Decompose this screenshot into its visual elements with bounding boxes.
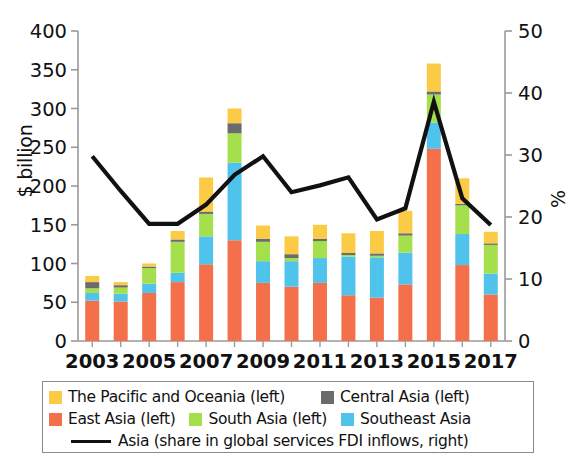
y-tick-right: 20 — [518, 206, 543, 229]
bar-segment — [228, 240, 242, 341]
legend-label-pacific-oceania: The Pacific and Oceania (left) — [68, 388, 285, 406]
bar-segment — [114, 294, 128, 302]
bar-segment — [114, 282, 128, 285]
bar-segment — [228, 109, 242, 124]
figure-root: g 05010015020025030035040001020304050200… — [0, 0, 576, 462]
bar-segment — [256, 261, 270, 283]
legend-item-southeast-asia: Southeast Asia — [341, 410, 471, 428]
bar-segment — [341, 257, 355, 296]
bar-segment — [256, 242, 270, 261]
bar-segment — [370, 257, 384, 297]
bar-segment — [85, 276, 99, 282]
bar-segment — [484, 295, 498, 342]
bar-segment — [313, 239, 327, 241]
bar-segment — [427, 91, 441, 94]
bar-segment — [370, 231, 384, 253]
legend-item-central-asia: Central Asia (left) — [321, 388, 469, 406]
chart-canvas: 0501001502002503003504000102030405020032… — [0, 0, 576, 370]
bar-segment — [285, 236, 299, 254]
bar-segment — [256, 239, 270, 242]
y-axis-right-title: % — [547, 169, 569, 229]
bar-segment — [313, 241, 327, 258]
bar-segment — [142, 293, 156, 341]
y-axis-left-title: $ billion — [14, 96, 36, 226]
legend-item-south-asia: South Asia (left) — [189, 410, 327, 428]
bar-segment — [370, 253, 384, 255]
bar-segment — [484, 245, 498, 274]
bar-segment — [199, 214, 213, 236]
legend-item-east-asia: East Asia (left) — [49, 410, 175, 428]
legend-swatch-southeast-asia — [341, 413, 354, 426]
x-tick-label: 2013 — [350, 350, 404, 370]
bar-segment — [313, 225, 327, 239]
bar-segment — [171, 239, 185, 241]
y-tick-right: 50 — [518, 20, 543, 43]
bar-segment — [85, 293, 99, 301]
chart-legend: The Pacific and Oceania (left) Central A… — [42, 381, 534, 453]
bar-segment — [199, 212, 213, 214]
y-tick-left: 350 — [30, 59, 67, 82]
x-tick-label: 2015 — [407, 350, 461, 370]
bar-segment — [398, 233, 412, 235]
legend-swatch-pacific-oceania — [49, 391, 62, 404]
x-tick-label: 2017 — [464, 350, 518, 370]
x-tick-label: 2005 — [122, 350, 176, 370]
bar-segment — [484, 232, 498, 244]
bar-segment — [398, 211, 412, 233]
bar-segment — [228, 123, 242, 133]
bar-segment — [256, 226, 270, 239]
legend-label-south-asia: South Asia (left) — [208, 410, 327, 428]
bar-segment — [313, 283, 327, 341]
bar-segment — [256, 283, 270, 341]
bar-segment — [85, 282, 99, 288]
bar-segment — [114, 301, 128, 341]
bar-segment — [142, 267, 156, 269]
legend-swatch-east-asia — [49, 413, 62, 426]
bar-segment — [85, 301, 99, 341]
bar-segment — [171, 282, 185, 341]
bar-segment — [341, 295, 355, 341]
bar-segment — [228, 133, 242, 162]
legend-label-east-asia: East Asia (left) — [68, 410, 175, 428]
bar-segment — [199, 264, 213, 341]
y-tick-right: 40 — [518, 82, 543, 105]
legend-label-central-asia: Central Asia (left) — [340, 388, 469, 406]
bar-segment — [398, 236, 412, 253]
bar-segment — [114, 285, 128, 287]
legend-swatch-central-asia — [321, 391, 334, 404]
bar-segment — [171, 242, 185, 273]
y-tick-right: 0 — [518, 330, 530, 353]
bar-segment — [370, 298, 384, 341]
bar-segment — [313, 258, 327, 283]
bar-segment — [341, 233, 355, 252]
bar-segment — [142, 284, 156, 293]
legend-label-asia-share: Asia (share in global services FDI inflo… — [118, 432, 468, 450]
bar-segment — [285, 287, 299, 341]
bar-segment — [114, 288, 128, 294]
bar-segment — [142, 268, 156, 284]
legend-line-asia-share — [71, 440, 111, 443]
bar-segment — [398, 284, 412, 341]
legend-label-southeast-asia: Southeast Asia — [360, 410, 471, 428]
bar-segment — [285, 261, 299, 287]
y-tick-right: 10 — [518, 268, 543, 291]
bar-segment — [199, 236, 213, 264]
bar-segment — [142, 264, 156, 267]
bar-segment — [455, 234, 469, 265]
bar-segment — [341, 255, 355, 257]
bar-segment — [85, 288, 99, 293]
x-tick-label: 2011 — [293, 350, 347, 370]
bar-segment — [484, 274, 498, 295]
legend-item-asia-share-line: Asia (share in global services FDI inflo… — [71, 432, 468, 450]
legend-item-pacific-oceania: The Pacific and Oceania (left) — [49, 388, 285, 406]
legend-swatch-south-asia — [189, 413, 202, 426]
x-tick-label: 2009 — [236, 350, 290, 370]
bar-segment — [455, 265, 469, 341]
x-tick-label: 2003 — [65, 350, 119, 370]
bar-segment — [285, 258, 299, 261]
bar-segment — [171, 231, 185, 240]
bar-segment — [484, 243, 498, 245]
bar-segment — [398, 253, 412, 285]
plot-area: 0501001502002503003504000102030405020032… — [0, 0, 576, 370]
y-tick-left: 50 — [42, 291, 67, 314]
